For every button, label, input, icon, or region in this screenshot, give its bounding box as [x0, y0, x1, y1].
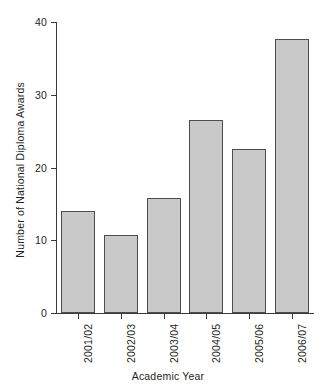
bar [275, 39, 309, 313]
bar [232, 149, 266, 313]
y-axis-tick-label: 10 [35, 235, 47, 246]
y-axis-title: Number of National Diploma Awards [14, 82, 26, 258]
bar [189, 120, 223, 313]
x-axis-tick-label: 2006/07 [297, 324, 308, 363]
x-axis-tick [78, 314, 79, 319]
x-axis-tick [249, 314, 250, 319]
bar-chart: 010203040 2001/022002/032003/042004/0520… [0, 0, 336, 392]
y-axis-tick [51, 95, 57, 96]
x-axis-tick [206, 314, 207, 319]
y-axis-tick-label: 0 [41, 308, 47, 319]
x-axis-tick-label: 2001/02 [83, 324, 94, 363]
x-axis-line [56, 313, 314, 314]
y-axis-tick-label: 40 [35, 17, 47, 28]
x-axis-tick [164, 314, 165, 319]
x-axis-tick-label: 2003/04 [169, 324, 180, 363]
x-axis-title: Academic Year [0, 370, 336, 382]
x-axis-tick-label: 2002/03 [126, 324, 137, 363]
bar [147, 198, 181, 313]
y-axis-tick-label: 20 [35, 163, 47, 174]
y-axis-tick [51, 22, 57, 23]
x-axis-tick-label: 2005/06 [254, 324, 265, 363]
bar [61, 211, 95, 313]
y-axis-tick-label: 30 [35, 90, 47, 101]
bar [104, 235, 138, 313]
x-axis-tick [121, 314, 122, 319]
x-axis-tick [292, 314, 293, 319]
y-axis-tick [51, 168, 57, 169]
y-axis-tick [51, 240, 57, 241]
x-axis-tick-label: 2004/05 [211, 324, 222, 363]
